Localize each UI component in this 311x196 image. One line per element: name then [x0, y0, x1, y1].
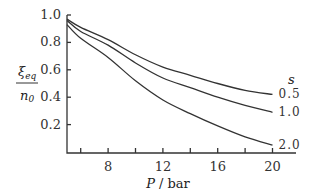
y-denominator: n — [20, 88, 28, 103]
curve-s-0.5 — [67, 19, 273, 94]
y-tick-label: 1.0 — [40, 7, 61, 22]
x-tick-label: 12 — [155, 159, 172, 174]
chart: 0.20.40.60.81.08121620 0.51.02.0 ξeq n0 … — [0, 0, 311, 196]
y-tick-label: 0.2 — [40, 117, 61, 132]
curves — [67, 19, 273, 145]
labels: 0.51.02.0 — [279, 87, 301, 152]
svg-text:ξeq: ξeq — [18, 64, 36, 81]
series-label-2.0: 2.0 — [279, 138, 301, 152]
y-numerator-sub: eq — [25, 71, 36, 81]
series-label-1.0: 1.0 — [279, 105, 301, 119]
y-tick-label: 0.4 — [40, 89, 61, 104]
x-axis-label: P / bar — [145, 176, 190, 191]
axis-lines — [67, 15, 296, 153]
y-tick-label: 0.6 — [40, 62, 61, 77]
series-label-0.5: 0.5 — [279, 87, 301, 101]
x-tick-label: 20 — [264, 159, 281, 174]
y-denominator-sub: 0 — [28, 94, 34, 104]
x-tick-label: 16 — [209, 159, 226, 174]
legend-title: s — [288, 72, 295, 87]
x-tick-label: 8 — [104, 159, 112, 174]
y-axis-label: ξeq n0 — [16, 64, 38, 104]
curve-s-2.0 — [67, 25, 273, 146]
axes: 0.20.40.60.81.08121620 — [40, 7, 296, 174]
y-tick-label: 0.8 — [40, 34, 61, 49]
svg-text:n0: n0 — [20, 88, 34, 104]
